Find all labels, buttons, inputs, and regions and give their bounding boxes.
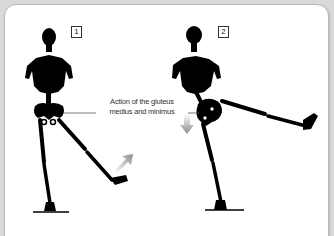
skeleton-illustration — [0, 0, 334, 236]
skeleton-2 — [172, 26, 318, 210]
label-line-1: Action of the gluteus — [96, 97, 188, 107]
muscle-action-label: Action of the gluteus medius and minimus — [96, 97, 188, 117]
arrow-up-right-icon — [115, 154, 133, 173]
panel-number-2: 2 — [218, 26, 229, 38]
panel-number-1: 1 — [71, 26, 82, 38]
label-line-2: medius and minimus — [96, 107, 188, 117]
skeleton-1 — [25, 28, 128, 211]
arrow-down-icon — [180, 114, 194, 134]
